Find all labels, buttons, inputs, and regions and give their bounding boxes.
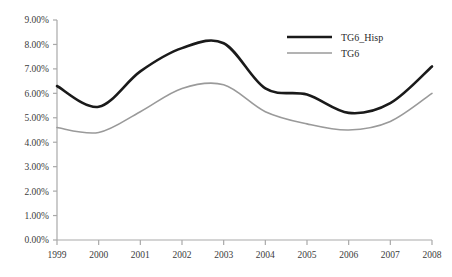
x-tick-label: 2005 bbox=[298, 250, 317, 260]
x-tick-label: 2001 bbox=[131, 250, 150, 260]
x-tick-label: 2006 bbox=[339, 250, 358, 260]
y-tick-label: 3.00% bbox=[24, 162, 49, 172]
chart-container: 0.00%1.00%2.00%3.00%4.00%5.00%6.00%7.00%… bbox=[0, 0, 452, 277]
x-tick-label: 2007 bbox=[381, 250, 400, 260]
y-tick-label: 1.00% bbox=[24, 211, 49, 221]
y-tick-label: 4.00% bbox=[24, 138, 49, 148]
x-tick-label: 2004 bbox=[256, 250, 275, 260]
y-tick-label: 9.00% bbox=[24, 15, 49, 25]
x-tick-label: 2002 bbox=[173, 250, 192, 260]
y-tick-label: 0.00% bbox=[24, 235, 49, 245]
y-tick-label: 7.00% bbox=[24, 64, 49, 74]
x-tick-label: 2000 bbox=[89, 250, 108, 260]
legend-label-tg6: TG6 bbox=[341, 48, 359, 59]
y-tick-label: 8.00% bbox=[24, 40, 49, 50]
line-chart: 0.00%1.00%2.00%3.00%4.00%5.00%6.00%7.00%… bbox=[0, 0, 452, 277]
x-tick-label: 2003 bbox=[214, 250, 233, 260]
x-tick-label: 1999 bbox=[48, 250, 67, 260]
legend-label-tg6-hisp: TG6_Hisp bbox=[341, 32, 383, 43]
chart-background bbox=[0, 0, 452, 277]
y-tick-label: 5.00% bbox=[24, 113, 49, 123]
y-tick-label: 6.00% bbox=[24, 89, 49, 99]
y-tick-label: 2.00% bbox=[24, 187, 49, 197]
x-tick-label: 2008 bbox=[423, 250, 442, 260]
